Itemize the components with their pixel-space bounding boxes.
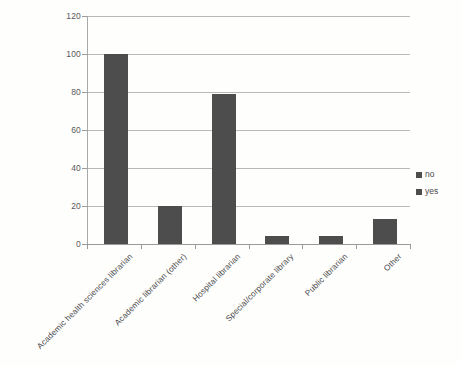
bar: [265, 236, 289, 244]
legend-item-no[interactable]: no: [416, 166, 461, 183]
y-tick-label-100: 100: [57, 50, 81, 59]
bar: [373, 219, 397, 244]
legend-item-yes[interactable]: yes: [416, 183, 461, 200]
y-axis-line: [87, 16, 88, 245]
bar: [104, 54, 128, 244]
gridline-60: [87, 130, 410, 131]
legend-label-no: no: [425, 170, 434, 179]
gridline-80: [87, 92, 410, 93]
bar: [212, 94, 236, 244]
legend-swatch-yes-icon: [416, 189, 422, 195]
y-tick-mark-100: [82, 54, 87, 55]
x-tick-mark-0: [87, 244, 88, 249]
y-tick-label-120: 120: [57, 12, 81, 21]
x-axis-label-2: Hospital librarian: [190, 252, 242, 304]
x-tick-mark-5: [356, 244, 357, 249]
y-tick-mark-40: [82, 168, 87, 169]
x-tick-mark-end: [410, 244, 411, 249]
bar: [158, 206, 182, 244]
y-tick-mark-120: [82, 16, 87, 17]
legend-swatch-no-icon: [416, 172, 422, 178]
y-tick-mark-60: [82, 130, 87, 131]
y-tick-label-80: 80: [57, 88, 81, 97]
chart-legend: no yes: [416, 166, 461, 200]
bar-chart-figure: 020406080100120 Academic health sciences…: [0, 0, 461, 365]
x-tick-mark-1: [141, 244, 142, 249]
y-tick-mark-20: [82, 206, 87, 207]
gridline-100: [87, 54, 410, 55]
y-tick-mark-80: [82, 92, 87, 93]
gridline-40: [87, 168, 410, 169]
y-tick-label-0: 0: [57, 240, 81, 249]
y-tick-label-60: 60: [57, 126, 81, 135]
x-axis-label-0: Academic health sciences librarian: [35, 252, 134, 351]
y-tick-label-20: 20: [57, 202, 81, 211]
bar: [319, 236, 343, 244]
gridline-20: [87, 206, 410, 207]
x-axis-label-5: Other: [382, 252, 403, 273]
x-tick-mark-3: [249, 244, 250, 249]
legend-label-yes: yes: [425, 187, 438, 196]
x-axis-label-4: Public librarian: [304, 252, 350, 298]
gridline-120: [87, 16, 410, 17]
x-tick-mark-2: [195, 244, 196, 249]
y-tick-label-40: 40: [57, 164, 81, 173]
x-tick-mark-4: [302, 244, 303, 249]
